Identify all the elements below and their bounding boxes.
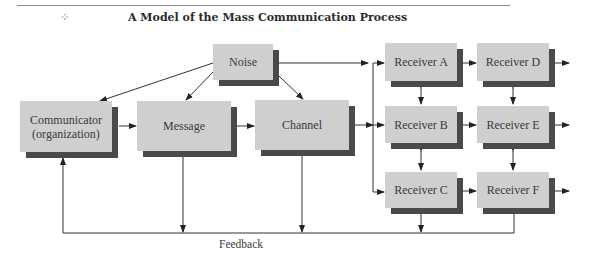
receiver-e-label: Receiver E [487, 118, 540, 132]
receiver-f-label: Receiver F [487, 183, 539, 197]
channel-label: Channel [282, 118, 322, 132]
communicator-sublabel: (organization) [32, 127, 100, 141]
receiver-b-label: Receiver B [394, 118, 448, 132]
receiver-a-box: Receiver A [385, 43, 457, 81]
message-box: Message [137, 101, 231, 151]
receiver-a-label: Receiver A [394, 55, 448, 69]
communicator-box: Communicator (organization) [20, 101, 112, 152]
receiver-d-box: Receiver D [477, 43, 549, 81]
noise-label: Noise [229, 55, 257, 69]
channel-box: Channel [255, 100, 349, 150]
receiver-f-box: Receiver F [477, 172, 549, 208]
feedback-label: Feedback [219, 238, 263, 250]
message-label: Message [163, 119, 205, 133]
noise-box: Noise [213, 44, 273, 80]
receiver-c-box: Receiver C [385, 172, 457, 208]
receiver-c-label: Receiver C [394, 183, 448, 197]
receiver-d-label: Receiver D [486, 55, 540, 69]
receiver-b-box: Receiver B [385, 106, 457, 143]
communicator-label: Communicator [30, 113, 102, 127]
receiver-e-box: Receiver E [477, 106, 549, 143]
